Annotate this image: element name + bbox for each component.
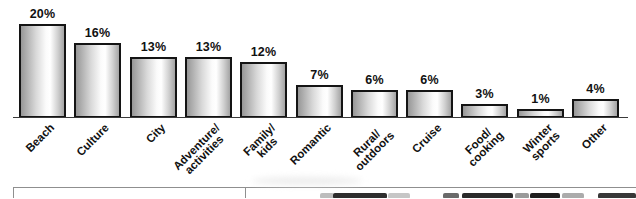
- photo-strip: [250, 193, 636, 199]
- bar-chart: 20%16%13%13%12%7%6%6%3%1%4% BeachCulture…: [0, 0, 636, 186]
- category-label-3: Adventure/activities: [172, 122, 229, 179]
- bar-5: [296, 85, 343, 118]
- category-label-8: Food/cooking: [459, 122, 505, 168]
- bar-4: [240, 62, 287, 118]
- photo-fragment-0: [320, 193, 334, 199]
- category-label-6: Rural/outdoors: [345, 122, 395, 172]
- value-label-6: 6%: [365, 73, 383, 87]
- photo-fragment-2: [388, 193, 410, 199]
- category-label-5: Romantic: [288, 122, 332, 166]
- bottom-section-left-border: [13, 187, 14, 198]
- page: 20%16%13%13%12%7%6%6%3%1%4% BeachCulture…: [0, 0, 636, 198]
- category-label-1: Culture: [75, 122, 111, 158]
- photo-fragment-6: [530, 193, 560, 199]
- value-label-7: 6%: [420, 73, 438, 87]
- value-label-8: 3%: [475, 87, 493, 101]
- photo-fragment-4: [462, 193, 513, 199]
- bar-3: [185, 57, 232, 118]
- photo-fragment-3: [443, 193, 459, 199]
- photo-haze: [252, 177, 362, 185]
- category-label-4: Family/kids: [241, 122, 284, 165]
- value-label-2: 13%: [141, 40, 167, 54]
- value-label-10: 4%: [586, 82, 604, 96]
- category-label-9: Wintersports: [521, 122, 561, 162]
- x-axis-line: [13, 117, 628, 119]
- bar-1: [74, 43, 121, 118]
- bar-6: [351, 90, 398, 118]
- bottom-section-top-border: [13, 187, 636, 188]
- category-label-7: Cruise: [410, 122, 443, 155]
- bar-0: [19, 24, 66, 118]
- value-label-4: 12%: [251, 45, 277, 59]
- value-label-1: 16%: [85, 26, 111, 40]
- category-label-10: Other: [580, 122, 609, 151]
- value-label-9: 1%: [531, 92, 549, 106]
- bar-2: [130, 57, 177, 118]
- bar-10: [572, 99, 619, 118]
- photo-fragment-7: [562, 193, 584, 199]
- bottom-section-panel-divider: [245, 187, 246, 198]
- category-label-2: City: [144, 122, 167, 145]
- value-label-3: 13%: [196, 40, 222, 54]
- photo-fragment-1: [333, 193, 387, 199]
- category-label-0: Beach: [24, 122, 56, 154]
- bar-7: [406, 90, 453, 118]
- photo-fragment-5: [515, 193, 529, 199]
- photo-fragment-8: [598, 193, 636, 199]
- value-label-0: 20%: [30, 7, 56, 21]
- value-label-5: 7%: [310, 68, 328, 82]
